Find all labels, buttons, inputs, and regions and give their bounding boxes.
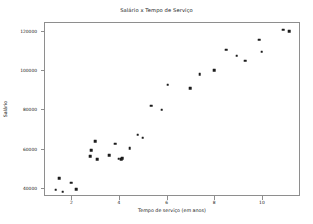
data-point xyxy=(94,140,97,143)
data-point xyxy=(114,142,117,145)
data-point xyxy=(258,38,261,41)
data-point xyxy=(160,108,163,111)
data-point xyxy=(244,59,247,62)
data-points-layer xyxy=(45,23,299,195)
data-point xyxy=(150,104,153,107)
data-point xyxy=(89,155,92,158)
data-point xyxy=(225,48,228,51)
data-point xyxy=(288,30,291,33)
x-tick-mark xyxy=(262,196,263,200)
scatter-chart-figure: Salário x Tempo de Serviço Salário Tempo… xyxy=(0,0,313,224)
data-point xyxy=(198,73,201,76)
plot-area xyxy=(44,22,300,196)
data-point xyxy=(260,50,263,53)
chart-title: Salário x Tempo de Serviço xyxy=(0,7,313,13)
x-tick-label: 10 xyxy=(259,200,265,205)
y-tick-label: 120000 xyxy=(0,28,37,33)
data-point xyxy=(213,69,216,72)
y-tick-label: 100000 xyxy=(0,68,37,73)
data-point xyxy=(108,154,111,157)
data-point xyxy=(282,28,285,31)
x-tick-label: 2 xyxy=(70,200,73,205)
y-tick-label: 60000 xyxy=(0,146,37,151)
data-point xyxy=(166,83,169,86)
data-point xyxy=(141,137,144,140)
x-tick-mark xyxy=(71,196,72,200)
data-point xyxy=(75,188,78,191)
data-point xyxy=(58,177,61,180)
data-point xyxy=(96,158,99,161)
data-point xyxy=(121,157,124,160)
data-point xyxy=(235,54,238,57)
data-point xyxy=(54,188,57,191)
x-tick-mark xyxy=(167,196,168,200)
x-tick-label: 6 xyxy=(165,200,168,205)
y-tick-label: 40000 xyxy=(0,186,37,191)
x-tick-label: 8 xyxy=(213,200,216,205)
x-tick-mark xyxy=(119,196,120,200)
data-point xyxy=(128,147,131,150)
x-tick-label: 4 xyxy=(118,200,121,205)
data-point xyxy=(90,149,93,152)
data-point xyxy=(137,134,140,137)
x-tick-mark xyxy=(214,196,215,200)
data-point xyxy=(189,87,192,90)
data-point xyxy=(62,191,65,194)
data-point xyxy=(70,181,73,184)
x-axis-label: Tempo de serviço (em anos) xyxy=(44,208,300,213)
y-tick-label: 80000 xyxy=(0,107,37,112)
